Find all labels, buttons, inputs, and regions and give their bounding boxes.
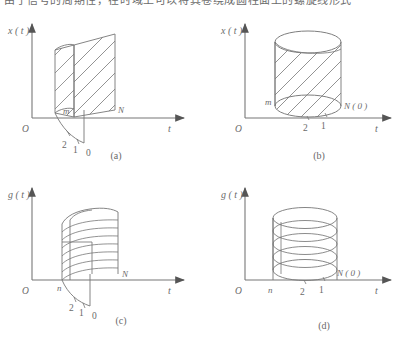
depth-tick-0-c: 0 [92,311,97,321]
ring-4-d [273,247,337,268]
point-label-n-d: n [268,285,273,295]
panel-a: x ( t ) t O m N 2 1 0 [0,10,203,170]
cylinder-d [273,208,337,285]
x-axis-label-a: t [168,123,171,134]
depth-tick-1-c: 1 [79,308,84,318]
ring-2-d [273,221,337,242]
y-axis-label-b: x ( t ) [220,25,243,37]
point-label-n0-b: N ( 0 ) [343,101,367,111]
cylinder-base-ellipse-b [275,95,341,117]
banded-surface-c [62,208,118,280]
origin-label-c: O [22,286,29,296]
depth-tick-1-b: 1 [321,121,326,131]
cylinder-b [258,10,358,151]
clipped-caption-text: 由于信号的周期性，在时域上可以将其卷绕成圆柱面上的螺旋线形式 [4,0,352,7]
depth-axis-c [62,274,90,308]
point-label-n-a: N [117,105,125,115]
y-axis-label-d: g ( t ) [221,189,244,201]
depth-tick-2-d: 2 [300,287,305,297]
cylinder-top-ellipse-b [275,31,341,53]
caption-b: (b) [299,150,339,161]
surface-flap-a [40,20,95,142]
depth-tick-1-d: 1 [319,285,324,295]
surface-panel-a [60,10,132,170]
point-label-n0-d: N ( 0 ) [336,268,360,278]
depth-tick-2-b: 2 [303,123,308,133]
caption-c: (c) [101,315,141,326]
depth-tick-1-a: 1 [73,145,78,155]
origin-label-d: O [235,286,242,296]
depth-tick-2-c: 2 [69,303,74,313]
point-label-m-a: m [63,106,70,116]
panel-b: x ( t ) t O m N ( 0 ) 2 1 [203,10,406,170]
origin-label-b: O [235,124,242,134]
caption-d: (d) [304,320,344,331]
y-axis-label-a: x ( t ) [7,25,30,37]
origin-label-a: O [22,124,29,134]
y-axis-label-c: g ( t ) [8,189,31,201]
depth-tick-0-a: 0 [86,148,91,158]
ring-3-d [273,234,337,255]
depth-axis-a [55,110,84,144]
ring-base-d [273,260,337,281]
panel-c: g ( t ) t O n N 2 1 0 [0,170,203,330]
figure-sheet: 由于信号的周期性，在时域上可以将其卷绕成圆柱面上的螺旋线形式 [0,0,406,341]
x-axis-label-b: t [375,123,378,134]
depth-tick-2-a: 2 [62,140,67,150]
clipped-caption-band: 由于信号的周期性，在时域上可以将其卷绕成圆柱面上的螺旋线形式 [0,0,406,9]
point-label-n-c: n [57,283,62,293]
point-label-m-b: m [265,97,272,107]
x-axis-label-c: t [168,285,171,296]
panel-d: g ( t ) t O n N ( 0 ) 2 1 [203,170,406,330]
point-label-n-right-c: N [121,269,129,279]
x-axis-label-d: t [375,285,378,296]
caption-a: (a) [96,150,136,161]
ring-top-d [273,208,337,229]
